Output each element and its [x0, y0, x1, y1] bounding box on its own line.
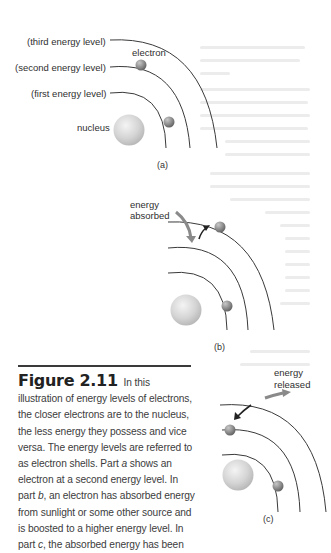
electron-third-level [215, 222, 226, 233]
energy-released-arrow [265, 393, 283, 398]
third-level-arc [220, 405, 326, 512]
energy-absorbed-arrowhead [186, 236, 196, 243]
second-energy-level-label: (second energy level) [15, 62, 106, 73]
part-a-label: (a) [157, 160, 168, 170]
nucleus [223, 460, 254, 491]
part-c-label: (c) [263, 514, 274, 524]
electron-first-level [164, 117, 175, 128]
electron-drop-arrow [238, 405, 251, 416]
energy-absorbed-label-line2: absorbed [130, 210, 170, 221]
electron-jump-arrow [199, 228, 206, 239]
electron-second-level [225, 425, 236, 436]
part-b-label: (b) [214, 342, 225, 352]
energy-released-label-line2: released [274, 379, 310, 390]
electron-label: electron [132, 47, 166, 58]
nucleus [114, 115, 145, 146]
energy-released-label-line1: energy [274, 367, 303, 378]
energy-released-arrowhead [282, 389, 291, 397]
caption-rule [18, 365, 191, 367]
electron-first-level [273, 481, 284, 492]
energy-absorbed-label-line1: energy [130, 199, 159, 210]
nucleus-label: nucleus [77, 122, 110, 133]
part-b-diagram [168, 212, 274, 330]
electron-second-level [136, 60, 147, 71]
third-energy-level-label: (third energy level) [27, 36, 106, 47]
nucleus [171, 295, 202, 326]
energy-absorbed-arrow [176, 212, 191, 238]
first-energy-level-label: (first energy level) [31, 88, 107, 99]
electron-first-level [222, 301, 233, 312]
figure-number: Figure 2.11 [18, 371, 118, 390]
caption-text: In this illustration of energy levels of… [18, 377, 192, 469]
caption-text: , the absorbed energy has been [43, 539, 184, 550]
part-c-diagram [220, 389, 326, 512]
figure-caption: Figure 2.11 In this illustration of ener… [18, 373, 196, 553]
